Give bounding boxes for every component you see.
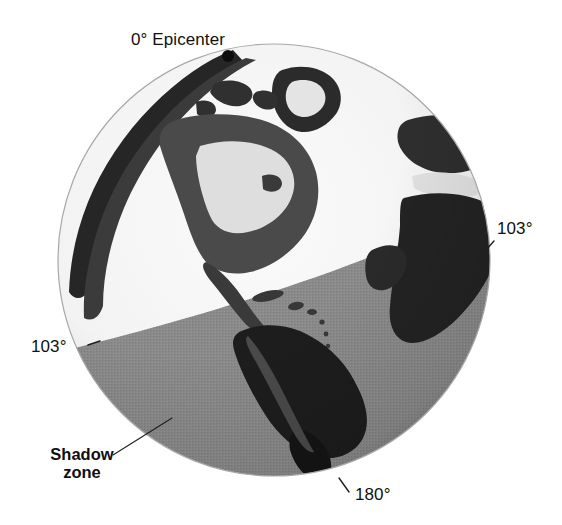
leader-line-180	[339, 478, 349, 492]
epicenter-marker-dot	[222, 50, 234, 62]
seismic-shadow-zone-figure: 0° Epicenter 103° 103° 180° Shadow zone	[0, 0, 562, 525]
degree-label-103-left: 103°	[31, 338, 67, 356]
globe-limb-shading	[58, 44, 490, 476]
shadow-zone-label-line1: Shadow	[18, 446, 146, 464]
degree-label-103-right: 103°	[497, 220, 533, 238]
shadow-zone-label-line2: zone	[18, 464, 146, 482]
epicenter-label: 0° Epicenter	[131, 31, 225, 49]
degree-label-180: 180°	[355, 486, 391, 504]
shadow-zone-label: Shadow zone	[18, 446, 146, 482]
